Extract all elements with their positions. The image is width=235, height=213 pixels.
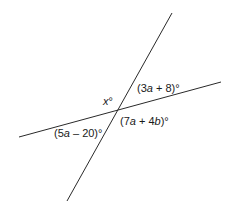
angle-label-top-right: (3a + 8)° [137, 83, 180, 94]
angle-label-bottom-right: (7a + 4b)° [120, 116, 169, 127]
steep-line [67, 13, 172, 201]
angle-label-x: x° [103, 96, 113, 107]
shallow-line [19, 82, 221, 137]
intersecting-lines-diagram [0, 0, 235, 213]
angle-label-bottom-left: (5a – 20)° [54, 128, 102, 139]
